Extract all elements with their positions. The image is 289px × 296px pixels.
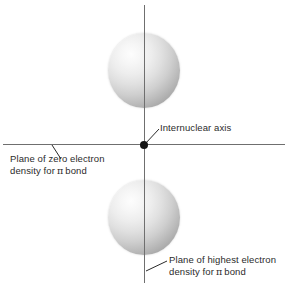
zero-density-plane-label-line1: Plane of zero electron (10, 153, 105, 165)
zero-density-plane-label: Plane of zero electron density forπbond (10, 153, 105, 176)
internuclear-axis-label: Internuclear axis (160, 122, 231, 134)
highest-density-plane-label-line2-suffix: bond (224, 266, 246, 277)
zero-density-plane-label-line2: density forπbond (10, 165, 105, 177)
pi-bond-diagram: Internuclear axis Plane of zero electron… (0, 0, 289, 296)
zero-density-plane-label-line2-suffix: bond (65, 165, 87, 176)
pi-symbol-icon: π (214, 266, 224, 277)
highest-density-plane-label-line2: density forπbond (169, 266, 276, 278)
internuclear-axis-label-text: Internuclear axis (160, 122, 231, 133)
pi-symbol-icon: π (55, 165, 65, 176)
nucleus-dot (140, 141, 148, 149)
highest-density-plane-label-line2-prefix: density for (169, 266, 214, 277)
highest-density-plane-label-line1: Plane of highest electron (169, 254, 276, 266)
zero-density-plane-label-line2-prefix: density for (10, 165, 55, 176)
highest-density-plane-label: Plane of highest electron density forπbo… (169, 254, 276, 277)
